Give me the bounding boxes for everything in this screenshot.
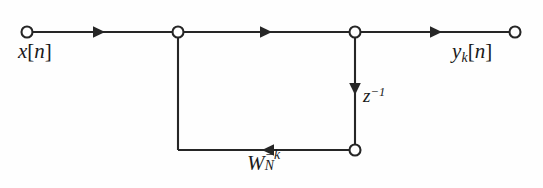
arrowhead-input-to-junction-icon <box>93 26 105 38</box>
node-output-branch <box>350 27 361 38</box>
input-signal-index: n <box>34 39 45 63</box>
node-input-terminal <box>22 27 33 38</box>
node-delay-output <box>350 145 361 156</box>
node-summing-junction <box>173 27 184 38</box>
twiddle-factor-label: WN−k <box>247 153 265 174</box>
delay-exponent: −1 <box>370 85 385 99</box>
node-output-terminal <box>510 27 521 38</box>
output-bracket-open: [ <box>468 39 475 63</box>
arrowhead-junction-to-branch-icon <box>260 26 272 38</box>
delay-element-label: z−1 <box>363 86 385 105</box>
output-signal-index: n <box>475 39 486 63</box>
twiddle-base: W <box>247 151 265 175</box>
signal-flow-diagram: x[n] yk[n] z−1 WN−k <box>0 0 543 188</box>
output-signal-label: yk[n] <box>452 41 492 65</box>
input-signal-base: x <box>18 39 27 63</box>
arrowhead-delay-branch-icon <box>349 83 361 95</box>
output-signal-base: y <box>452 39 461 63</box>
twiddle-superscript: −k <box>265 148 281 162</box>
arrowhead-branch-to-output-icon <box>430 26 442 38</box>
output-bracket-close: ] <box>485 39 492 63</box>
twiddle-stack: WN−k <box>247 153 265 174</box>
input-bracket-close: ] <box>45 39 52 63</box>
input-signal-label: x[n] <box>18 41 52 62</box>
